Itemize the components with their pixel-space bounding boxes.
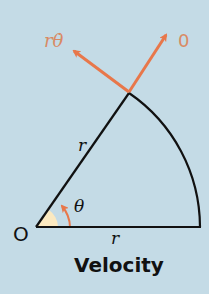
radial-velocity-label: 0 — [178, 30, 189, 51]
angle-label: θ — [74, 196, 84, 216]
radial-velocity-arrow-icon — [129, 35, 166, 92]
arc — [129, 93, 200, 227]
velocity-diagram: rθ̇ 0 r θ O r Velocity — [0, 0, 209, 294]
tangential-velocity-label: rθ̇ — [44, 30, 63, 51]
tangential-velocity-arrow-icon — [74, 51, 129, 92]
caption: Velocity — [74, 253, 164, 277]
origin-label: O — [13, 222, 29, 246]
radius-slant-label: r — [78, 135, 86, 155]
radius-base-label: r — [111, 228, 119, 248]
angle-arrow-icon — [62, 206, 70, 227]
